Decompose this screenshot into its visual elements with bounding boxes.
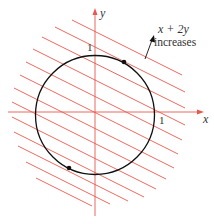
y-axis-label: y (100, 7, 105, 19)
max-point (122, 60, 127, 65)
min-point (67, 166, 72, 171)
y-axis-arrow-icon (93, 8, 98, 15)
x-axis-label: x (203, 113, 208, 125)
annotation-text: increases (154, 37, 196, 49)
annotation-arrow (145, 40, 152, 59)
x-tick-1: 1 (159, 115, 165, 126)
y-tick-1: 1 (87, 42, 93, 53)
annotation-formula: x + 2y (158, 23, 189, 35)
diagram: y x 1 1 x + 2y increases (0, 0, 214, 224)
